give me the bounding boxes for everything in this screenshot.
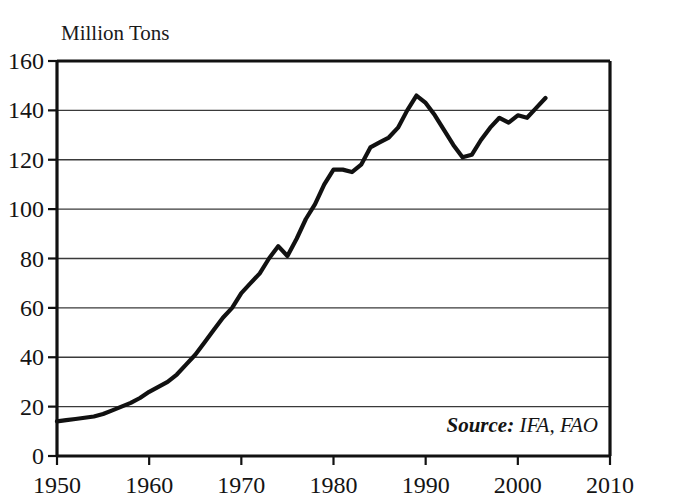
- x-tick-labels: 1950196019701980199020002010: [33, 472, 634, 498]
- y-tick-label: 20: [20, 394, 44, 420]
- x-tick-label: 1950: [33, 472, 81, 498]
- gridlines: [57, 110, 610, 406]
- source-annotation: Source: IFA, FAO: [447, 413, 598, 437]
- x-tick-label: 2010: [586, 472, 634, 498]
- chart-figure: 020406080100120140160 195019601970198019…: [0, 0, 674, 504]
- x-tick-label: 1980: [310, 472, 358, 498]
- y-tick-label: 80: [20, 246, 44, 272]
- y-axis-title: Million Tons: [61, 21, 169, 45]
- x-tick-label: 1990: [402, 472, 450, 498]
- y-tick-label: 60: [20, 295, 44, 321]
- x-tick-label: 2000: [494, 472, 542, 498]
- line-chart-canvas: 020406080100120140160 195019601970198019…: [0, 0, 674, 504]
- y-tick-label: 140: [8, 97, 44, 123]
- source-annotation-rest: IFA, FAO: [514, 413, 598, 437]
- source-annotation-lead: Source:: [447, 413, 515, 437]
- y-tick-label: 40: [20, 344, 44, 370]
- y-tick-label: 100: [8, 196, 44, 222]
- y-tick-label: 160: [8, 48, 44, 74]
- x-tick-label: 1960: [125, 472, 173, 498]
- y-tick-labels: 020406080100120140160: [8, 48, 44, 469]
- y-tick-label: 120: [8, 147, 44, 173]
- x-tick-label: 1970: [217, 472, 265, 498]
- y-tick-label: 0: [32, 443, 44, 469]
